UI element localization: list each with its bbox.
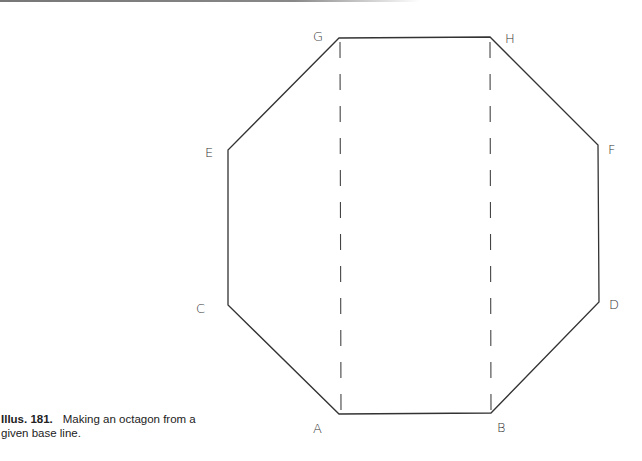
- figure-caption: Illus. 181.Making an octagon from a give…: [1, 412, 201, 440]
- caption-number: Illus. 181.: [1, 413, 53, 425]
- vertex-label-h: H: [505, 31, 515, 46]
- octagon-diagram: [0, 0, 642, 461]
- illustration: G H E F C D A B Illus. 181.Making an oct…: [0, 0, 642, 461]
- vertex-label-f: F: [608, 142, 615, 157]
- octagon-outline: [228, 37, 599, 414]
- vertex-label-a: A: [313, 421, 322, 436]
- vertex-label-d: D: [609, 297, 619, 312]
- dashed-line-hb: [490, 42, 491, 411]
- vertex-label-c: C: [196, 301, 205, 316]
- vertex-label-e: E: [205, 145, 213, 160]
- vertex-label-g: G: [313, 29, 323, 44]
- dashed-line-ga: [340, 42, 341, 412]
- vertex-label-b: B: [497, 420, 506, 435]
